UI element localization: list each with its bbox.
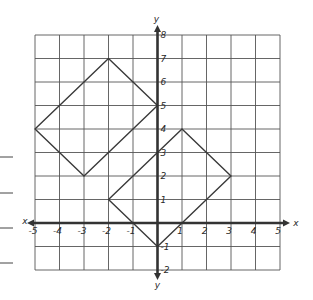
x-tick-label: -5 (29, 226, 38, 236)
y-tick-label: 8 (161, 30, 167, 40)
x-tick-label: 2 (202, 226, 208, 236)
y-tick-label: 6 (161, 77, 167, 87)
tick-labels: xxyy-5-4-3-2-11234587654321-1-2 (21, 14, 299, 290)
y-tick-label: 7 (161, 54, 167, 64)
x-tick-label: -3 (78, 226, 87, 236)
y-axis-label-bottom: y (154, 280, 161, 290)
y-axis-label-top: y (153, 14, 160, 24)
margin-lines (0, 157, 13, 263)
x-tick-label: 5 (275, 226, 281, 236)
y-tick-label: -2 (161, 265, 170, 275)
y-tick-label: 1 (161, 195, 167, 205)
x-tick-label: -2 (102, 226, 111, 236)
y-tick-label: 5 (161, 101, 167, 111)
x-axis-label-right: x (292, 218, 299, 228)
y-tick-label: 2 (161, 171, 167, 181)
x-tick-label: 4 (251, 226, 257, 236)
x-axis-label-left: x (21, 216, 28, 226)
large-square (35, 59, 158, 177)
y-tick-label: 4 (161, 124, 167, 134)
y-tick-label: 3 (161, 148, 167, 158)
coordinate-plane: xxyy-5-4-3-2-11234587654321-1-2 (0, 0, 313, 300)
x-tick-label: -4 (53, 226, 62, 236)
x-tick-label: 3 (226, 226, 232, 236)
y-tick-label: -1 (161, 242, 170, 252)
arrow-right-icon (283, 220, 290, 227)
x-tick-label: 1 (177, 226, 183, 236)
x-tick-label: -1 (127, 226, 136, 236)
